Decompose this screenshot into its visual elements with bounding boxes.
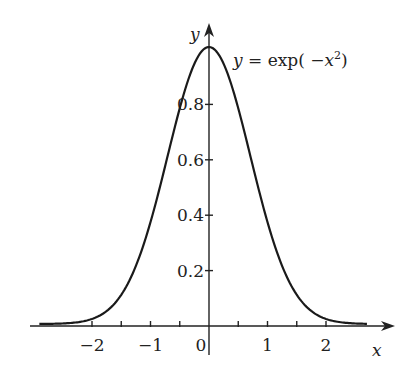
y-axis: 0.20.40.60.8 y <box>177 23 214 355</box>
y-ticks: 0.20.40.60.8 <box>177 94 213 280</box>
x-axis: −2−1012 x <box>30 321 395 360</box>
y-tick-label: 0.4 <box>177 205 204 225</box>
function-label-var: x <box>324 50 334 70</box>
x-tick-label: 0 <box>196 335 207 355</box>
function-label: y = exp( −x2) <box>232 49 348 70</box>
x-axis-label: x <box>372 340 382 360</box>
function-label-lhs: y <box>232 50 243 70</box>
function-label-neg: − <box>310 50 324 70</box>
gaussian-curve <box>39 47 367 324</box>
x-tick-label: 2 <box>321 335 332 355</box>
y-tick-label: 0.2 <box>177 261 204 281</box>
chart: −2−1012 x 0.20.40.60.8 y y = exp( −x2) <box>0 0 413 378</box>
y-axis-label: y <box>189 24 200 44</box>
function-label-eq: = exp( <box>243 50 311 70</box>
x-tick-label: −1 <box>138 335 163 355</box>
x-tick-label: −2 <box>79 335 104 355</box>
function-label-close: ) <box>341 50 348 70</box>
y-tick-label: 0.6 <box>177 150 204 170</box>
function-label-exponent: 2 <box>334 49 341 62</box>
x-tick-label: 1 <box>262 335 273 355</box>
